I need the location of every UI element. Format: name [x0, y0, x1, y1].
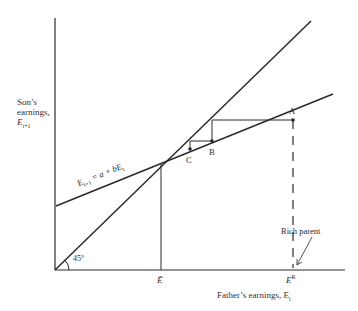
y-axis-label: Son’s earnings, Et+1 — [17, 97, 50, 131]
angle-label: 45° — [73, 254, 84, 263]
y-label-line2: earnings, — [17, 107, 50, 117]
point-c-dot — [188, 147, 192, 151]
angle-arc — [65, 260, 69, 270]
point-c-label: C — [186, 155, 192, 165]
y-label-line1: Son’s — [17, 97, 50, 107]
x-axis-label: Father’s earnings, Et — [217, 290, 291, 304]
rich-parent-arrow — [297, 237, 312, 265]
point-b-dot — [210, 139, 214, 143]
tick-e-rich: ER — [286, 274, 296, 285]
rich-parent-annotation: Rich parent — [281, 226, 320, 236]
intergenerational-earnings-diagram — [0, 0, 358, 311]
point-b-label: B — [209, 147, 215, 157]
forty-five-degree-line — [55, 21, 311, 270]
point-a-dot — [291, 118, 295, 122]
y-label-line3: Et+1 — [17, 117, 50, 131]
tick-e-bar: Ē — [157, 275, 163, 285]
point-a-label: A — [289, 106, 295, 116]
